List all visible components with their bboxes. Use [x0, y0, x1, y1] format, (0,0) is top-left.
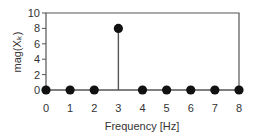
plot-frame	[46, 13, 239, 90]
plot-border	[46, 13, 239, 90]
stem-marker	[210, 85, 219, 94]
x-tick-label: 7	[212, 102, 218, 114]
x-tick-label: 3	[115, 102, 121, 114]
x-tick-label: 8	[236, 102, 242, 114]
stem-series	[41, 24, 243, 95]
y-tick-label: 0	[34, 84, 40, 96]
stem-marker	[90, 85, 99, 94]
x-axis-ticks: 012345678	[43, 102, 242, 114]
x-tick-label: 4	[139, 102, 145, 114]
stem-marker	[186, 85, 195, 94]
y-tick-label: 2	[34, 69, 40, 81]
y-axis-ticks: 0246810	[28, 7, 46, 96]
x-tick-label: 0	[43, 102, 49, 114]
x-tick-label: 1	[67, 102, 73, 114]
stem-marker	[138, 85, 147, 94]
x-tick-label: 2	[91, 102, 97, 114]
stem-marker	[114, 24, 123, 33]
y-tick-label: 4	[34, 53, 40, 65]
x-tick-label: 5	[164, 102, 170, 114]
x-tick-label: 6	[188, 102, 194, 114]
stem-chart: 0246810 012345678 Frequency [Hz] mag(Xₖ)	[0, 0, 257, 138]
stem-marker	[66, 85, 75, 94]
y-tick-label: 10	[28, 7, 40, 19]
stem-marker	[41, 85, 50, 94]
stem-marker	[234, 85, 243, 94]
y-axis-title: mag(Xₖ)	[11, 31, 23, 72]
y-tick-label: 6	[34, 38, 40, 50]
stem-marker	[162, 85, 171, 94]
y-tick-label: 8	[34, 22, 40, 34]
x-axis-title: Frequency [Hz]	[105, 120, 180, 132]
